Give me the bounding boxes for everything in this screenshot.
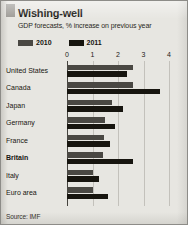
bar-2011 [67, 89, 160, 95]
chart-subtitle: GDP forecasts, % increase on previous ye… [18, 21, 182, 30]
legend-item-2010: 2010 [18, 39, 52, 46]
bar-2011 [67, 124, 115, 130]
bar-2010 [67, 135, 104, 141]
bar-group [1, 99, 188, 113]
bar-2010 [67, 65, 133, 71]
chart-legend: 20102011 [18, 39, 102, 46]
bar-2010 [67, 100, 112, 106]
legend-swatch-2010 [18, 40, 33, 46]
bar-rows: United StatesCanadaJapanGermanyFranceBri… [1, 62, 188, 204]
x-tick-label-4: 4 [167, 51, 171, 59]
bar-2011 [67, 71, 127, 77]
chart-figure: Wishing-well GDP forecasts, % increase o… [0, 0, 188, 225]
chart-header: Wishing-well GDP forecasts, % increase o… [18, 7, 182, 30]
bar-2010 [67, 187, 93, 193]
bar-row: Germany [1, 115, 188, 133]
plot-area: 01234 United StatesCanadaJapanGermanyFra… [1, 51, 188, 206]
source-note: Source: IMF [6, 213, 40, 221]
bar-group [1, 169, 188, 183]
bar-2011 [67, 141, 110, 147]
x-tick-label-1: 1 [91, 51, 95, 59]
bar-row: Italy [1, 167, 188, 185]
bar-2011 [67, 106, 123, 112]
bar-2010 [67, 170, 93, 176]
bar-2010 [67, 82, 133, 88]
legend-swatch-2011 [69, 40, 84, 46]
bar-group [1, 134, 188, 148]
x-tick-label-0: 0 [65, 51, 69, 59]
bar-group [1, 152, 188, 166]
bar-group [1, 117, 188, 131]
bar-group [1, 82, 188, 96]
bar-row: Canada [1, 80, 188, 98]
bar-group [1, 64, 188, 78]
x-tick-label-3: 3 [142, 51, 146, 59]
bar-row: Euro area [1, 185, 188, 203]
legend-label-2011: 2011 [87, 39, 102, 46]
chart-title: Wishing-well [18, 7, 182, 19]
x-tick-label-2: 2 [116, 51, 120, 59]
bar-group [1, 187, 188, 201]
bar-row: France [1, 132, 188, 150]
bar-2010 [67, 152, 103, 158]
bar-2011 [67, 159, 133, 165]
bar-2011 [67, 176, 99, 182]
bar-row: Japan [1, 97, 188, 115]
bar-2010 [67, 117, 105, 123]
bar-2011 [67, 194, 108, 200]
legend-label-2010: 2010 [36, 39, 52, 46]
bar-row: Britain [1, 150, 188, 168]
corner-tab [6, 4, 15, 17]
bar-row: United States [1, 62, 188, 80]
legend-item-2011: 2011 [69, 39, 102, 46]
